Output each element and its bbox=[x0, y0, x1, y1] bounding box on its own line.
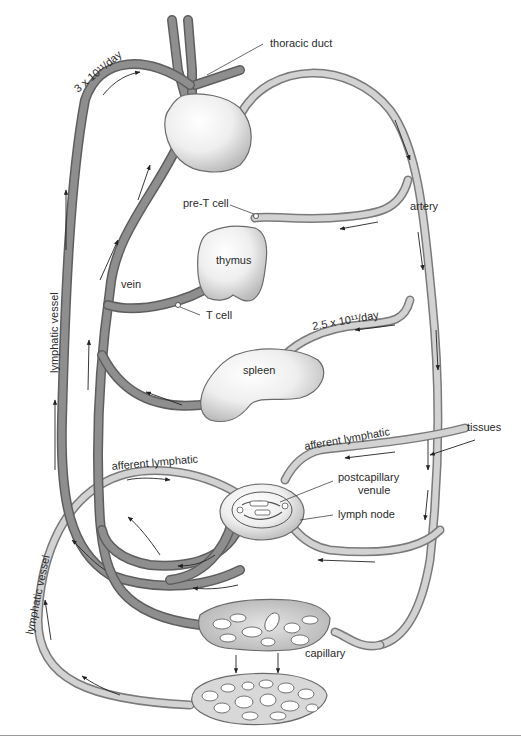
label-thymus: thymus bbox=[216, 254, 252, 266]
label-artery: artery bbox=[410, 200, 439, 212]
label-tissues: tissues bbox=[467, 421, 502, 433]
lymphocyte-recirculation-diagram: thoracic duct 3 x 10¹¹/day pre-T cell ar… bbox=[0, 0, 521, 745]
label-spleen: spleen bbox=[243, 364, 275, 376]
t-cell-marker bbox=[176, 303, 181, 308]
label-capillary: capillary bbox=[305, 647, 346, 659]
label-venule: venule bbox=[358, 484, 390, 496]
bottom-divider bbox=[0, 735, 521, 736]
heart bbox=[165, 94, 251, 172]
label-postcapillary: postcapillary bbox=[338, 471, 400, 483]
label-lymphatic-vessel-upper: lymphatic vessel bbox=[48, 292, 60, 373]
label-lymphatic-vessel-lower: lymphatic vessel bbox=[23, 554, 52, 635]
label-vein: vein bbox=[121, 278, 141, 290]
capillary-bed bbox=[199, 599, 330, 650]
label-pre-t-cell: pre-T cell bbox=[183, 197, 229, 209]
label-thoracic-duct: thoracic duct bbox=[270, 37, 332, 49]
tissue-lymphatic-bed bbox=[192, 673, 327, 724]
label-lymph-node: lymph node bbox=[338, 508, 395, 520]
pre-t-cell-marker bbox=[254, 214, 259, 219]
spleen bbox=[201, 349, 324, 422]
label-t-cell: T cell bbox=[206, 309, 232, 321]
lymph-node bbox=[220, 484, 304, 540]
